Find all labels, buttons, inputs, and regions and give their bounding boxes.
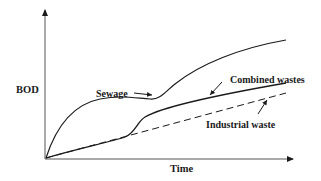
y-axis-label: BOD bbox=[16, 84, 39, 95]
x-axis-label: Time bbox=[170, 163, 193, 174]
bod-chart: BOD Time Sewage Combined wastes Industri… bbox=[0, 0, 321, 181]
sewage-label: Sewage bbox=[96, 88, 128, 99]
combined-wastes-label: Combined wastes bbox=[230, 74, 305, 85]
industrial-waste-label: Industrial waste bbox=[206, 119, 276, 130]
industrial-waste-pointer-arrow bbox=[258, 100, 267, 114]
sewage-curve bbox=[46, 40, 286, 158]
sewage-pointer-arrow bbox=[134, 93, 152, 95]
combined-wastes-pointer-arrow bbox=[210, 82, 222, 95]
